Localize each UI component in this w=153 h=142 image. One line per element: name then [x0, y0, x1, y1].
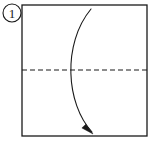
step-number-badge: 1 — [3, 4, 21, 22]
origami-step-diagram: 1 — [0, 0, 153, 142]
diagram-canvas: 1 — [0, 0, 153, 142]
step-number-label: 1 — [9, 6, 16, 21]
